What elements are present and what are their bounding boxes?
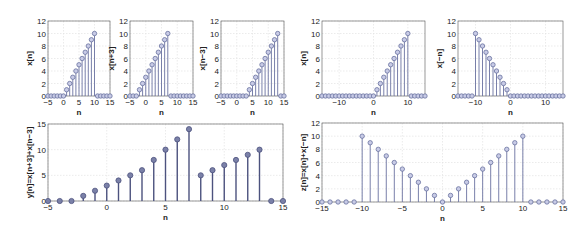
stem-marker xyxy=(344,200,348,204)
stem-marker xyxy=(385,69,389,73)
stem-marker xyxy=(108,94,112,98)
stem-marker xyxy=(210,168,215,173)
x-axis-label: n xyxy=(159,108,164,117)
y-tick-label: 2 xyxy=(316,80,321,89)
y-tick-label: 4 xyxy=(316,67,321,76)
y-tick-label: 6 xyxy=(215,55,220,64)
y-tick-label: 10 xyxy=(37,30,46,39)
y-tick-label: 6 xyxy=(42,55,47,64)
stem-marker xyxy=(402,38,406,42)
x-tick-label: 10 xyxy=(403,98,412,107)
x-tick-label: 5 xyxy=(77,98,82,107)
y-tick-label: 4 xyxy=(452,67,457,76)
stem-marker xyxy=(440,200,444,204)
y-axis-label: x[n] xyxy=(299,51,308,66)
y-tick-label: 5 xyxy=(42,171,47,180)
stem-marker xyxy=(505,88,509,92)
stem-marker xyxy=(92,31,96,35)
stem-marker xyxy=(45,198,50,203)
stem-marker xyxy=(68,81,72,85)
stem-marker xyxy=(456,187,460,191)
stem-marker xyxy=(269,44,273,48)
x-tick-label: 10 xyxy=(518,204,527,213)
stem-marker xyxy=(151,157,156,162)
stem-marker xyxy=(553,200,557,204)
stem-marker xyxy=(489,160,493,164)
y-tick-label: 10 xyxy=(37,146,46,155)
stem-marker xyxy=(371,94,375,98)
stem-marker xyxy=(477,38,481,42)
y-tick-label: 2 xyxy=(124,80,129,89)
stem-marker xyxy=(561,200,565,204)
stem-marker xyxy=(80,56,84,60)
stem-marker xyxy=(244,94,248,98)
y-tick-label: 10 xyxy=(311,132,320,141)
stem-marker xyxy=(487,56,491,60)
stem-marker xyxy=(257,69,261,73)
stem-marker xyxy=(92,188,97,193)
stem-marker xyxy=(175,137,180,142)
y-tick-label: 12 xyxy=(119,17,128,26)
stem-marker xyxy=(392,56,396,60)
stem-plot-p5: −10010024681012nx[−n] xyxy=(435,17,565,117)
y-tick-label: 6 xyxy=(124,55,129,64)
stem-marker xyxy=(399,44,403,48)
stem-marker xyxy=(77,63,81,67)
stem-marker xyxy=(81,193,86,198)
stem-marker xyxy=(360,134,364,138)
y-tick-label: 8 xyxy=(316,145,321,154)
x-axis-label: n xyxy=(250,108,255,117)
stem-marker xyxy=(186,127,191,132)
x-axis-label: n xyxy=(163,213,168,222)
y-tick-label: 15 xyxy=(37,120,46,129)
y-tick-label: 12 xyxy=(37,17,46,26)
stem-marker xyxy=(86,44,90,48)
x-tick-label: 10 xyxy=(220,203,229,212)
stem-marker xyxy=(89,38,93,42)
stem-marker xyxy=(156,50,160,54)
stem-marker xyxy=(260,63,264,67)
stem-marker xyxy=(484,50,488,54)
x-tick-label: 5 xyxy=(250,98,255,107)
stem-marker xyxy=(250,81,254,85)
y-tick-label: 8 xyxy=(215,42,220,51)
y-tick-label: 4 xyxy=(42,67,47,76)
stem-marker xyxy=(423,94,427,98)
stem-marker xyxy=(163,147,168,152)
y-tick-label: 12 xyxy=(311,119,320,128)
stem-marker xyxy=(166,31,170,35)
stem-marker xyxy=(472,173,476,177)
x-tick-label: −10 xyxy=(469,98,483,107)
x-tick-label: 0 xyxy=(440,204,445,213)
x-tick-label: 15 xyxy=(106,98,115,107)
x-tick-label: 10 xyxy=(90,98,99,107)
x-tick-label: 0 xyxy=(105,203,110,212)
stem-marker xyxy=(497,154,501,158)
y-tick-label: 12 xyxy=(210,17,219,26)
stem-marker xyxy=(140,81,144,85)
stem-marker xyxy=(352,200,356,204)
stem-marker xyxy=(432,193,436,197)
y-tick-label: 2 xyxy=(316,185,321,194)
stem-marker xyxy=(150,63,154,67)
x-axis-label: n xyxy=(77,108,82,117)
stem-marker xyxy=(392,160,396,164)
stem-marker xyxy=(470,94,474,98)
y-tick-label: 2 xyxy=(215,80,220,89)
x-tick-label: 10 xyxy=(541,98,550,107)
stem-marker xyxy=(513,141,517,145)
stem-marker xyxy=(137,88,141,92)
stem-plot-p1: −5051015024681012nx[n] xyxy=(25,17,115,117)
stem-marker xyxy=(245,152,250,157)
y-tick-label: 12 xyxy=(311,17,320,26)
y-tick-label: 8 xyxy=(452,42,457,51)
stem-marker xyxy=(247,88,251,92)
y-tick-label: 12 xyxy=(447,17,456,26)
stem-marker xyxy=(521,134,525,138)
stem-marker xyxy=(71,75,75,79)
stem-marker xyxy=(282,94,286,98)
y-tick-label: 10 xyxy=(119,30,128,39)
y-axis-label: y[n]=x[n+3]+x[n−3] xyxy=(25,126,34,198)
stem-marker xyxy=(480,167,484,171)
stem-marker xyxy=(191,94,195,98)
